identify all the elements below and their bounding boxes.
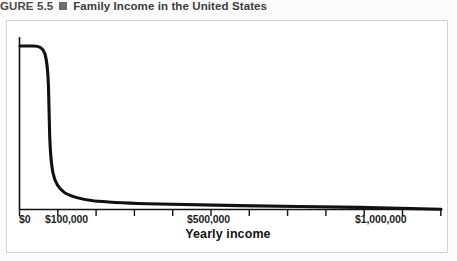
figure-caption: GURE 5.5 Family Income in the United Sta… — [0, 0, 457, 15]
caption-title: Family Income in the United States — [73, 0, 267, 12]
chart-frame: $0 $100,000 $500,000 $1,000,000 Yearly i… — [6, 20, 448, 253]
distribution-curve — [20, 46, 441, 209]
caption-number: GURE 5.5 — [0, 0, 53, 12]
x-tick-label-100000: $100,000 — [45, 213, 88, 225]
x-tick-label-500000: $500,000 — [187, 213, 230, 225]
x-axis-title: Yearly income — [7, 227, 449, 241]
x-tick-label-1000000: $1,000,000 — [355, 213, 407, 225]
square-bullet-icon — [59, 2, 67, 10]
plot-area: $0 $100,000 $500,000 $1,000,000 Yearly i… — [7, 21, 449, 254]
x-tick-label-0: $0 — [19, 213, 30, 225]
